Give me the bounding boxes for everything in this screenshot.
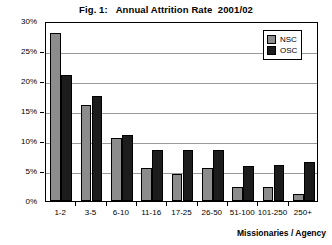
x-axis: 1-23-56-1011-1617-2526-5051-100101-25025… <box>45 202 318 222</box>
bar-osc-11-16 <box>152 150 163 201</box>
bar-osc-17-25 <box>183 150 194 201</box>
bar-group <box>76 23 106 201</box>
x-tick-mark <box>227 202 228 206</box>
x-tick-mark <box>75 202 76 206</box>
x-tick-mark <box>166 202 167 206</box>
bar-group <box>107 23 137 201</box>
bar-osc-3-5 <box>92 96 103 201</box>
bar-group <box>137 23 167 201</box>
y-tick-label: 25% <box>21 48 37 56</box>
bar-nsc-1-2 <box>50 33 61 201</box>
x-tick-mark <box>288 202 289 206</box>
y-tick-mark <box>40 52 44 53</box>
bar-nsc-51-100 <box>232 187 243 201</box>
x-tick-label-101-250: 101-250 <box>258 208 287 217</box>
x-axis-title: Missionaries / Agency <box>237 228 326 238</box>
bar-group <box>228 23 258 201</box>
x-tick-label-1-2: 1-2 <box>54 208 66 217</box>
y-tick-label: 30% <box>21 18 37 26</box>
legend-item-osc[interactable]: OSC <box>267 45 297 56</box>
x-tick-label-51-100: 51-100 <box>230 208 255 217</box>
legend-swatch-nsc <box>267 35 276 44</box>
y-tick-label: 10% <box>21 138 37 146</box>
x-tick-label-26-50: 26-50 <box>202 208 222 217</box>
y-tick-label: 0% <box>25 198 37 206</box>
y-tick-mark <box>40 82 44 83</box>
bar-osc-26-50 <box>213 150 224 201</box>
x-tick-label-250+: 250+ <box>294 208 312 217</box>
bar-nsc-17-25 <box>172 174 183 201</box>
x-tick-mark <box>106 202 107 206</box>
bar-nsc-3-5 <box>81 105 92 201</box>
bar-osc-51-100 <box>243 166 254 201</box>
x-tick-mark <box>257 202 258 206</box>
bar-osc-1-2 <box>61 75 72 201</box>
y-axis: 0%5%10%15%20%25%30% <box>0 22 44 202</box>
bar-nsc-26-50 <box>202 168 213 201</box>
bar-nsc-101-250 <box>263 187 274 201</box>
legend-item-nsc[interactable]: NSC <box>267 34 297 45</box>
legend-label-nsc: NSC <box>280 35 297 44</box>
x-tick-label-6-10: 6-10 <box>113 208 129 217</box>
y-tick-mark <box>40 142 44 143</box>
bar-group <box>46 23 76 201</box>
chart-title: Fig. 1: Annual Attrition Rate 2001/02 <box>0 4 332 15</box>
bar-osc-6-10 <box>122 135 133 201</box>
y-tick-label: 20% <box>21 78 37 86</box>
y-tick-mark <box>40 172 44 173</box>
bar-osc-250+ <box>304 162 315 201</box>
y-tick-mark <box>40 112 44 113</box>
bar-nsc-250+ <box>293 194 304 201</box>
x-tick-label-11-16: 11-16 <box>141 208 161 217</box>
bar-group <box>167 23 197 201</box>
bar-osc-101-250 <box>274 165 285 201</box>
chart-legend: NSCOSC <box>263 30 302 60</box>
bar-group <box>198 23 228 201</box>
legend-label-osc: OSC <box>280 46 297 55</box>
x-tick-mark <box>136 202 137 206</box>
legend-swatch-osc <box>267 46 276 55</box>
x-tick-label-3-5: 3-5 <box>85 208 97 217</box>
bar-nsc-11-16 <box>141 168 152 201</box>
attrition-rate-chart: Fig. 1: Annual Attrition Rate 2001/02 0%… <box>0 0 332 245</box>
y-tick-label: 5% <box>25 168 37 176</box>
y-tick-label: 15% <box>21 108 37 116</box>
bar-nsc-6-10 <box>111 138 122 201</box>
x-tick-mark <box>197 202 198 206</box>
x-tick-label-17-25: 17-25 <box>171 208 191 217</box>
